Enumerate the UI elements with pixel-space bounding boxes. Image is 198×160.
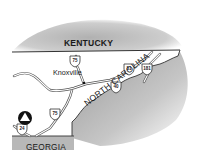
city-label-knoxville: Knoxville [53, 68, 82, 77]
shield-label-i181: 181 [141, 66, 153, 72]
state-label-georgia: GEORGIA [26, 142, 66, 152]
state-label-kentucky: KENTUCKY [64, 38, 113, 48]
shield-label-i81: 81 [123, 66, 135, 72]
triangle-in-circle-icon [18, 111, 32, 125]
knoxville-dot [83, 82, 86, 85]
shield-label-i75-north: 75 [69, 58, 81, 64]
shield-label-i75-south: 75 [49, 111, 61, 117]
map-graphic [0, 0, 198, 160]
tennessee-map: KENTUCKY Knoxville GEORGIA NORTH CAROLIN… [0, 0, 198, 160]
shield-label-i24: 24 [16, 126, 28, 132]
shield-label-i40: 40 [110, 84, 122, 90]
